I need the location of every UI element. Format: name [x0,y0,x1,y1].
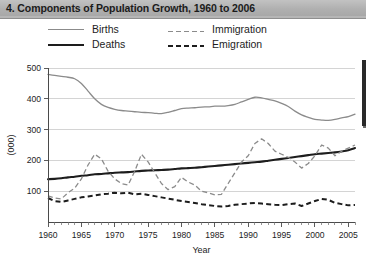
gridlines [48,68,355,191]
x-tick-label: 1965 [72,230,91,240]
legend-label-deaths: Deaths [92,38,125,50]
chart-legend: Births Deaths Immigration Emigration [48,24,298,54]
legend-swatch-emigration-icon [168,45,204,47]
legend-label-emigration: Emigration [212,38,262,50]
data-series [48,74,355,206]
y-tick-label: 100 [27,186,42,196]
legend-swatch-deaths-icon [48,44,84,50]
series-line-emigration [48,193,355,207]
y-tick-label: 400 [27,94,42,104]
y-tick-label: 200 [27,155,42,165]
x-tick-label: 1970 [105,230,124,240]
legend-swatch-births-icon [48,29,84,34]
y-tick-label: 300 [27,125,42,135]
series-line-births [48,74,355,120]
x-tick-label: 2000 [305,230,324,240]
figure-population-growth: 4. Components of Population Growth, 1960… [0,0,366,258]
y-tick-label: 500 [27,63,42,73]
legend-label-births: Births [92,23,119,35]
x-axis-title: Year [192,245,210,255]
plot-area: 100200300400500(000)19601965197019751980… [0,56,366,258]
axis-labels: 100200300400500(000)19601965197019751980… [6,63,358,255]
legend-label-immigration: Immigration [212,23,267,35]
x-tick-label: 1980 [172,230,191,240]
x-tick-label: 1985 [205,230,224,240]
line-chart-svg: 100200300400500(000)19601965197019751980… [0,56,366,258]
x-tick-label: 1960 [38,230,57,240]
chart-title: 4. Components of Population Growth, 1960… [6,2,255,14]
title-divider [0,18,366,19]
series-line-immigration [48,139,355,199]
title-bar: 4. Components of Population Growth, 1960… [0,0,366,18]
x-tick-label: 1990 [239,230,258,240]
x-tick-label: 1975 [139,230,158,240]
x-tick-label: 2005 [339,230,358,240]
legend-swatch-immigration-icon [168,31,204,32]
x-tick-label: 1995 [272,230,291,240]
page-edge-artifact [362,60,366,126]
y-axis-title: (000) [6,134,16,155]
